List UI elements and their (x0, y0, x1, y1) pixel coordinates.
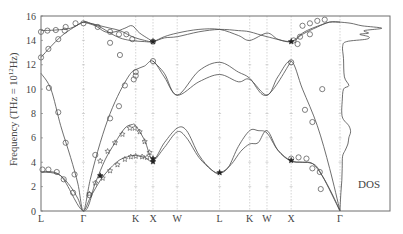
data-circle (295, 41, 300, 46)
data-circle (302, 107, 307, 112)
branch-la-upper (153, 61, 291, 95)
dispersion-curves (41, 22, 340, 211)
data-star (147, 150, 152, 155)
branch-la (41, 61, 340, 211)
y-tick-label: 4 (31, 157, 36, 168)
experimental-markers (38, 17, 327, 198)
x-tick-label: X (288, 213, 296, 224)
y-tick-label: 2 (31, 181, 36, 192)
dos-label: DOS (358, 178, 380, 190)
x-tick-label: L (38, 213, 44, 224)
data-circle (56, 110, 61, 115)
x-tick-label: Γ (81, 213, 87, 224)
data-circle (307, 21, 312, 26)
x-tick-label: W (172, 213, 182, 224)
y-tick-label: 16 (26, 11, 36, 22)
branch-to1 (41, 22, 340, 58)
data-circle (320, 87, 325, 92)
data-circle (310, 119, 315, 124)
x-tick-label: W (262, 213, 272, 224)
data-circle (307, 32, 312, 37)
data-circle (310, 166, 315, 171)
data-circle (62, 28, 67, 33)
data-filled-star (217, 170, 223, 175)
x-tick-label: L (217, 213, 223, 224)
data-circle (116, 104, 121, 109)
x-tick-label: Γ (337, 213, 343, 224)
y-axis-tick-labels: 0246810121416 (26, 11, 36, 217)
data-circle (116, 32, 121, 37)
branch-ta1 (41, 129, 340, 211)
data-circle (73, 21, 78, 26)
data-star (98, 158, 103, 163)
data-circle (304, 156, 309, 161)
data-circle (322, 17, 327, 22)
y-tick-label: 12 (26, 59, 36, 70)
y-tick-label: 6 (31, 132, 36, 143)
data-star (105, 149, 110, 154)
x-tick-label: K (132, 213, 140, 224)
data-star (120, 131, 125, 136)
data-circle (117, 52, 122, 57)
y-tick-label: 8 (31, 108, 36, 119)
data-star (128, 154, 133, 159)
data-circle (107, 40, 112, 45)
grid-lines (82, 16, 342, 211)
y-axis-label: Frequency (THz = 1012Hz) (7, 34, 20, 184)
branch-ta2 (41, 124, 340, 211)
data-circle (300, 23, 305, 28)
data-star (107, 168, 112, 173)
x-tick-label: K (246, 213, 254, 224)
data-circle (315, 18, 320, 23)
data-star (144, 155, 149, 160)
y-tick-label: 14 (26, 35, 36, 46)
data-circle (318, 186, 323, 191)
data-circle (72, 172, 77, 177)
y-tick-label: 10 (26, 84, 36, 95)
x-tick-label: X (149, 213, 157, 224)
phonon-dispersion-chart: 0246810121416 LΓKXWLKWXΓ DOS (0, 0, 403, 234)
data-star (132, 125, 137, 130)
x-axis-tick-labels: LΓKXWLKWXΓ (38, 213, 343, 224)
data-circle (296, 155, 301, 160)
data-circle (93, 152, 98, 157)
y-tick-label: 0 (31, 206, 36, 217)
